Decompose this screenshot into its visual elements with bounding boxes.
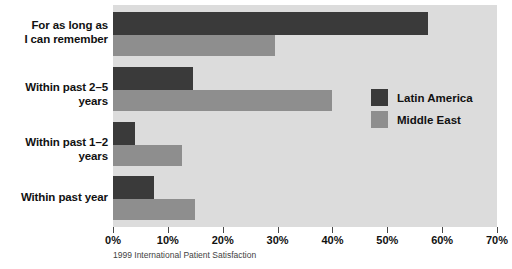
category-label-for-as-long-as-i-can-remember: For as long as I can remember <box>0 19 108 46</box>
legend-swatch-icon-middle-east <box>371 111 388 128</box>
category-label-within-past-2-5-years: Within past 2–5 years <box>0 81 108 108</box>
legend-label-middle-east: Middle East <box>397 114 461 126</box>
x-axis-tick <box>497 227 498 233</box>
category-label-line: Within past 1–2 years <box>0 136 108 163</box>
bar-latin-america-row-3 <box>113 122 135 145</box>
x-axis-tick-label: 20% <box>212 234 234 246</box>
bar-middle-east-row-2 <box>113 90 332 111</box>
bar-chart: For as long as I can remember Within pas… <box>0 0 512 269</box>
bar-middle-east-row-3 <box>113 145 182 166</box>
x-axis-tick <box>332 227 333 233</box>
bar-middle-east-row-1 <box>113 35 275 56</box>
x-axis-tick-label: 40% <box>321 234 343 246</box>
x-axis-tick-label: 30% <box>267 234 289 246</box>
legend-swatch-icon-latin-america <box>371 89 388 106</box>
x-axis-tick <box>442 227 443 233</box>
category-label-within-past-1-2-years: Within past 1–2 years <box>0 136 108 163</box>
x-axis-tick-label: 70% <box>486 234 508 246</box>
legend: Latin America Middle East <box>371 88 473 132</box>
x-axis-tick-label: 50% <box>376 234 398 246</box>
category-label-line: Within past 2–5 years <box>0 81 108 108</box>
bar-latin-america-row-2 <box>113 67 193 90</box>
legend-label-latin-america: Latin America <box>397 92 473 104</box>
legend-item-middle-east: Middle East <box>371 110 473 129</box>
x-axis-tick <box>223 227 224 233</box>
category-label-line: Within past year <box>0 191 108 205</box>
category-axis-labels: For as long as I can remember Within pas… <box>0 5 108 227</box>
x-axis-tick <box>113 227 114 233</box>
category-label-line: For as long as <box>0 19 108 33</box>
x-axis-tick <box>168 227 169 233</box>
x-axis-tick-label: 10% <box>157 234 179 246</box>
x-axis: 0%10%20%30%40%50%60%70% <box>113 227 497 249</box>
x-axis-tick-label: 0% <box>105 234 121 246</box>
category-label-within-past-year: Within past year <box>0 191 108 205</box>
category-label-line: I can remember <box>0 33 108 47</box>
x-axis-tick-label: 60% <box>431 234 453 246</box>
legend-item-latin-america: Latin America <box>371 88 473 107</box>
bar-latin-america-row-1 <box>113 12 428 35</box>
chart-caption: 1999 International Patient Satisfaction <box>113 250 503 260</box>
x-axis-tick <box>278 227 279 233</box>
plot-area: Latin America Middle East <box>113 5 497 227</box>
x-axis-tick <box>387 227 388 233</box>
bar-latin-america-row-4 <box>113 176 154 199</box>
bar-middle-east-row-4 <box>113 199 195 220</box>
